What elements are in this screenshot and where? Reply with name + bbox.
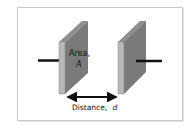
capacitor-diagram: Area, A Distance, d (0, 0, 191, 127)
distance-label-text: Distance, (72, 103, 107, 112)
area-variable: A (75, 60, 81, 69)
right-plate (118, 21, 146, 94)
distance-variable: d (113, 103, 118, 112)
distance-label: Distance, d (72, 103, 118, 112)
capacitor-graphic: Area, A Distance, d (0, 0, 191, 127)
area-label: Area, (69, 49, 90, 58)
